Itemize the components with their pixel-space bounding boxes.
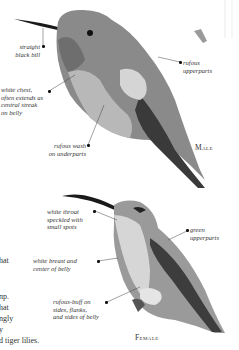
- female-sex-label: Female: [135, 333, 159, 342]
- male-chest-label: white chest, often extends as central st…: [1, 86, 61, 116]
- body-text-fragment: y: [0, 325, 3, 334]
- male-bill-label: straight black bill: [2, 43, 40, 58]
- female-throat-label: white throat speckled with small spots: [47, 208, 95, 231]
- breast-callout-dot: [97, 260, 100, 263]
- female-upperparts-callout-dot: [186, 229, 189, 232]
- body-text-fragment: np.: [0, 292, 9, 301]
- female-sides-label: rufous-buff on sides, flanks, and sides …: [53, 298, 115, 321]
- male-underparts-label: rufous wash on underparts: [30, 142, 86, 157]
- bill-callout-dot: [42, 45, 45, 48]
- underparts-callout-dot: [87, 144, 90, 147]
- female-breast-label: white breast and center of belly: [33, 257, 95, 272]
- body-text-fragment: d tiger lilies.: [0, 336, 39, 345]
- body-text-fragment: ngly: [0, 314, 13, 323]
- body-text-fragment: hat: [0, 256, 9, 265]
- male-upperparts-callout-dot: [179, 61, 182, 64]
- body-text-fragment: hat: [0, 303, 9, 312]
- male-sex-label: Male: [195, 143, 213, 152]
- female-upperparts-label: green upperparts: [190, 226, 238, 241]
- male-upperparts-label: rufous upperparts: [183, 59, 239, 74]
- feeder-icon: [194, 0, 232, 43]
